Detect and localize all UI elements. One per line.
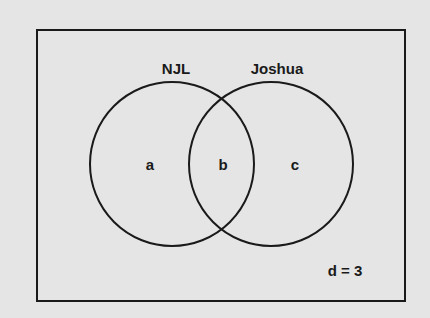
set-circle-joshua bbox=[189, 82, 353, 246]
region-label-a: a bbox=[146, 156, 155, 173]
region-label-c: c bbox=[291, 156, 299, 173]
venn-diagram-canvas: NJL Joshua a b c d = 3 bbox=[0, 0, 430, 318]
outside-label-d: d = 3 bbox=[328, 262, 363, 279]
region-label-b: b bbox=[218, 156, 227, 173]
set-label-joshua: Joshua bbox=[251, 60, 304, 77]
set-label-njl: NJL bbox=[162, 60, 190, 77]
venn-diagram: NJL Joshua a b c d = 3 bbox=[0, 0, 430, 318]
set-circle-njl bbox=[90, 82, 254, 246]
